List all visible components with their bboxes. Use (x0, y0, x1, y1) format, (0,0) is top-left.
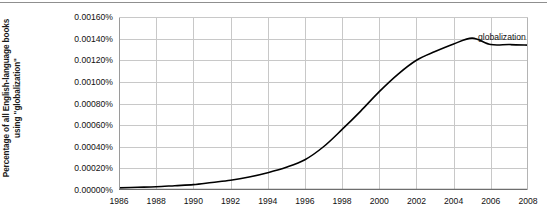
x-axis-tick-label: 2000 (370, 196, 389, 206)
x-axis-tick-label: 1994 (258, 196, 277, 206)
x-axis-tick-label: 1988 (147, 196, 166, 206)
x-axis-tick-label: 1998 (333, 196, 352, 206)
x-axis-tick-label: 1986 (109, 196, 128, 206)
x-axis-tick-label: 2002 (407, 196, 426, 206)
plot-svg (119, 17, 528, 190)
chart-figure: Percentage of all English-language books… (0, 0, 547, 221)
x-axis-tick-label: 2004 (444, 196, 463, 206)
x-axis-tick-label: 2008 (518, 196, 537, 206)
plot-area (119, 17, 528, 190)
x-axis-tick-label: 2006 (481, 196, 500, 206)
series-annotation-globalization: globalization (478, 32, 526, 42)
x-axis-tick-label: 1992 (221, 196, 240, 206)
x-axis-tick-label: 1996 (295, 196, 314, 206)
vertical-gridlines (157, 17, 492, 190)
x-axis-tick-label: 1990 (184, 196, 203, 206)
